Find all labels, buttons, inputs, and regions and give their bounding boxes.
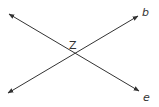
line-label-e: e	[143, 91, 150, 104]
line-b	[8, 16, 138, 93]
intersection-label: Z	[69, 39, 77, 52]
line-label-b: b	[142, 6, 149, 19]
diagram-canvas: Z b e	[0, 0, 159, 107]
line-e	[9, 14, 139, 91]
